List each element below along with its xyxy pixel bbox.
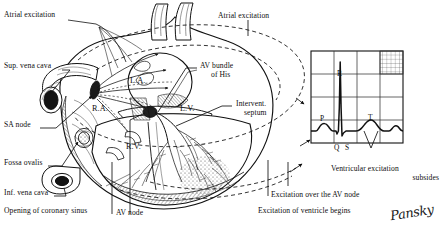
label-excitation-over-av-node: Excitation over the AV node: [271, 191, 359, 199]
label-left-ventricle: L.V.: [180, 105, 194, 114]
ecg-label-q: Q: [334, 144, 339, 152]
label-av-bundle-of-his-line2: of His: [211, 71, 230, 79]
ecg-fine-grid-inset: [380, 51, 403, 74]
heart-conduction-illustration: [0, 0, 444, 235]
label-ventricular-excitation-line1: Ventricular excitation: [331, 165, 399, 173]
label-inf-vena-cava: Inf. vena cava: [4, 189, 48, 197]
label-excitation-of-ventricle-begins: Excitation of ventricle begins: [258, 207, 351, 215]
ecg-label-t: T: [368, 114, 373, 122]
fossa-ovalis: [75, 128, 93, 147]
ecg-panel: [311, 51, 403, 148]
label-ventricular-excitation-line2: subsides: [331, 174, 439, 182]
label-fossa-ovalis: Fossa ovalis: [4, 159, 43, 167]
label-opening-of-coronary-sinus: Opening of coronary sinus: [4, 207, 87, 215]
label-intervent-septum-line1: Intervent.: [236, 100, 266, 108]
label-av-node: AV node: [116, 209, 143, 217]
correlation-arrowheads: [290, 98, 310, 172]
label-right-atrium: R.A.: [92, 105, 108, 114]
ecg-label-s: S: [345, 144, 349, 152]
label-left-atrium: L.A.: [130, 77, 145, 86]
label-atrial-excitation-top: Atrial excitation: [218, 12, 269, 20]
ecg-label-p: P: [320, 115, 324, 123]
label-sa-node: SA node: [4, 121, 31, 129]
figure-root: Atrial excitation Sup. vena cava SA node…: [0, 0, 444, 235]
label-atrial-excitation-left: Atrial excitation: [4, 11, 55, 19]
label-av-bundle-of-his-line1: AV bundle: [200, 62, 233, 70]
label-sup-vena-cava: Sup. vena cava: [4, 62, 51, 70]
ecg-label-r: R: [337, 70, 342, 78]
label-intervent-septum-line2: septum: [244, 109, 267, 117]
label-right-ventricle: R.V.: [126, 143, 141, 152]
